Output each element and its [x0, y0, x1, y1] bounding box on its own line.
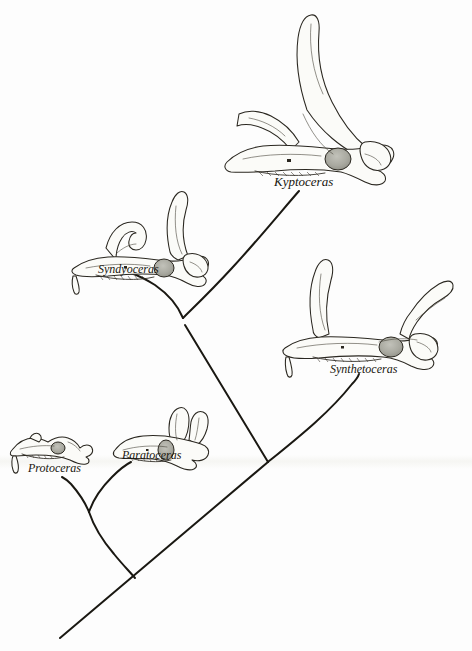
taxon-label-protoceras: Protoceras [28, 461, 81, 476]
taxon-label-synthetoceras: Synthetoceras [330, 362, 397, 377]
synthetoceras-skull [283, 260, 453, 378]
taxon-label-kyptoceras: Kyptoceras [274, 174, 333, 190]
kyptoceras-skull [225, 15, 394, 185]
figure-canvas: Kyptoceras Syndyoceras Synthetoceras Par… [0, 0, 472, 651]
skull-illustrations [0, 0, 472, 651]
taxon-label-paratoceras: Paratoceras [122, 448, 181, 463]
syndyoceras-skull [72, 191, 209, 294]
taxon-label-syndyoceras: Syndyoceras [98, 262, 159, 277]
